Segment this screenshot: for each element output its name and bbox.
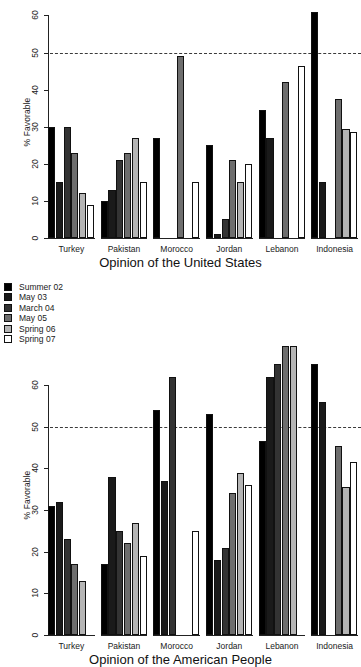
- x-axis-group-rule: [48, 635, 95, 636]
- x-axis-group-rule: [153, 635, 200, 636]
- bar: [64, 127, 71, 238]
- legend-swatch-icon: [4, 283, 12, 291]
- bar: [79, 581, 86, 635]
- bar: [229, 493, 236, 635]
- legend-label: Spring 06: [19, 324, 55, 334]
- bar: [274, 364, 281, 635]
- bar: [266, 138, 273, 238]
- y-axis-tick: [44, 90, 48, 91]
- x-axis-group-rule: [101, 238, 148, 239]
- bar: [132, 523, 139, 635]
- bar: [153, 410, 160, 635]
- x-axis-group-rule: [153, 238, 200, 239]
- bar: [206, 145, 213, 238]
- legend-item: Summer 02: [4, 282, 63, 292]
- bar: [319, 182, 326, 238]
- bar: [282, 82, 289, 238]
- y-axis-tick-label: 60: [30, 376, 40, 394]
- bar: [108, 477, 115, 635]
- bar: [335, 99, 342, 238]
- bar: [259, 441, 266, 635]
- legend-label: Summer 02: [19, 282, 63, 292]
- legend-swatch-icon: [4, 314, 12, 322]
- y-axis-tick: [44, 15, 48, 16]
- bar: [116, 160, 123, 238]
- legend-item: Spring 06: [4, 324, 63, 334]
- chart-opinion-american-people: 0102030405060% FavorableTurkeyPakistanMo…: [0, 352, 361, 666]
- legend-item: May 05: [4, 313, 63, 323]
- bar: [87, 205, 94, 238]
- chart-title: Opinion of the United States: [0, 255, 361, 270]
- x-axis-group-rule: [48, 238, 95, 239]
- bar: [71, 564, 78, 635]
- bar: [245, 164, 252, 238]
- bar: [79, 193, 86, 238]
- bar: [124, 543, 131, 635]
- y-axis-title: % Favorable: [22, 77, 32, 167]
- y-axis-tick-label: 50: [30, 44, 40, 62]
- bar: [169, 377, 176, 635]
- x-axis-group-rule: [311, 635, 358, 636]
- bar: [48, 506, 55, 635]
- bar: [71, 153, 78, 238]
- y-axis-tick: [44, 385, 48, 386]
- legend-swatch-icon: [4, 335, 12, 343]
- y-axis-tick: [44, 53, 48, 54]
- bar: [319, 402, 326, 635]
- x-axis-group-rule: [101, 635, 148, 636]
- bar: [245, 485, 252, 635]
- x-axis-group-rule: [259, 238, 306, 239]
- bar: [140, 556, 147, 635]
- bar: [342, 487, 349, 635]
- y-axis-tick-label: 60: [30, 6, 40, 24]
- bar: [56, 502, 63, 635]
- bar: [311, 12, 318, 238]
- legend-label: Spring 07: [19, 334, 55, 344]
- bar: [282, 346, 289, 635]
- legend-swatch-icon: [4, 304, 12, 312]
- y-axis-tick-label: 10: [30, 192, 40, 210]
- x-axis-category-label: Indonesia: [301, 244, 361, 254]
- y-axis-tick-label: 20: [30, 543, 40, 561]
- bar: [298, 66, 305, 239]
- legend-label: March 04: [19, 303, 54, 313]
- bar: [116, 531, 123, 635]
- legend-label: May 03: [19, 292, 47, 302]
- bar: [214, 560, 221, 635]
- bar: [222, 548, 229, 635]
- bar: [48, 127, 55, 238]
- bar: [192, 182, 199, 238]
- bar: [101, 201, 108, 238]
- chart-title: Opinion of the American People: [0, 652, 361, 667]
- bar: [335, 446, 342, 635]
- bar: [222, 219, 229, 238]
- x-axis-category-label: Indonesia: [301, 641, 361, 651]
- bar: [290, 346, 297, 635]
- chart-legend: Summer 02May 03March 04May 05Spring 06Sp…: [0, 282, 361, 348]
- y-axis-tick: [44, 427, 48, 428]
- bar: [108, 190, 115, 238]
- y-axis-tick-label: 10: [30, 584, 40, 602]
- bar: [101, 564, 108, 635]
- legend-item: May 03: [4, 292, 63, 302]
- y-axis-title: % Favorable: [22, 450, 32, 540]
- bar: [350, 132, 357, 238]
- bar: [140, 182, 147, 238]
- bar: [266, 377, 273, 635]
- bar: [229, 160, 236, 238]
- bar: [56, 182, 63, 238]
- chart-opinion-united-states: 0102030405060% FavorableTurkeyPakistanMo…: [0, 0, 361, 278]
- bar: [192, 531, 199, 635]
- legend-label: May 05: [19, 313, 47, 323]
- legend-swatch-icon: [4, 325, 12, 333]
- y-axis-tick-label: 50: [30, 418, 40, 436]
- bar: [177, 56, 184, 238]
- bar: [237, 182, 244, 238]
- legend-item: Spring 07: [4, 334, 63, 344]
- bar: [259, 110, 266, 238]
- bar: [206, 414, 213, 635]
- bar: [350, 462, 357, 635]
- legend-swatch-icon: [4, 293, 12, 301]
- x-axis-group-rule: [206, 635, 253, 636]
- x-axis-group-rule: [311, 238, 358, 239]
